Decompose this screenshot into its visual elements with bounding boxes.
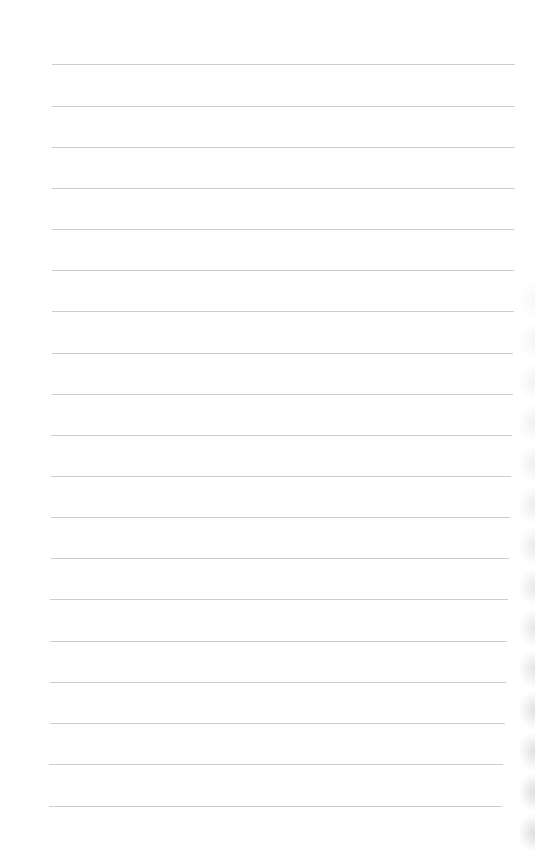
page-edge-curl-shadow bbox=[519, 610, 535, 646]
ruled-line bbox=[51, 476, 511, 477]
ruled-line bbox=[51, 558, 509, 559]
ruled-line bbox=[52, 188, 515, 189]
page-edge-curl-shadow bbox=[519, 323, 535, 359]
page-edge-curl-shadow bbox=[519, 282, 535, 318]
page-edge-curl-shadow bbox=[519, 364, 535, 400]
ruled-line bbox=[50, 682, 506, 683]
page-edge-curl-shadow bbox=[519, 733, 535, 769]
page-edge-curl-shadow bbox=[519, 528, 535, 564]
page-edge-curl-shadow bbox=[519, 569, 535, 605]
ruled-line bbox=[52, 147, 515, 148]
ruled-line bbox=[49, 806, 502, 807]
page-edge-curl-shadow bbox=[519, 815, 535, 851]
ruled-line bbox=[51, 435, 512, 436]
page-edge-curl-shadow bbox=[519, 446, 535, 482]
page-edge-curl-shadow bbox=[519, 692, 535, 728]
page-edge-curl-shadow bbox=[519, 774, 535, 810]
page-edge-curl-shadow bbox=[519, 651, 535, 687]
page-edge-curl-shadow bbox=[519, 487, 535, 523]
ruled-line bbox=[52, 64, 515, 65]
ruled-line bbox=[52, 311, 514, 312]
ruled-line bbox=[50, 599, 508, 600]
page-edge-curl-shadow bbox=[519, 405, 535, 441]
ruled-line bbox=[51, 517, 510, 518]
ruled-line bbox=[50, 641, 507, 642]
ruled-line bbox=[52, 394, 513, 395]
ruled-line bbox=[52, 106, 515, 107]
ruled-line bbox=[50, 723, 505, 724]
ruled-line bbox=[49, 764, 503, 765]
ruled-line bbox=[52, 353, 513, 354]
ruled-line bbox=[52, 270, 514, 271]
ruled-line bbox=[52, 229, 514, 230]
